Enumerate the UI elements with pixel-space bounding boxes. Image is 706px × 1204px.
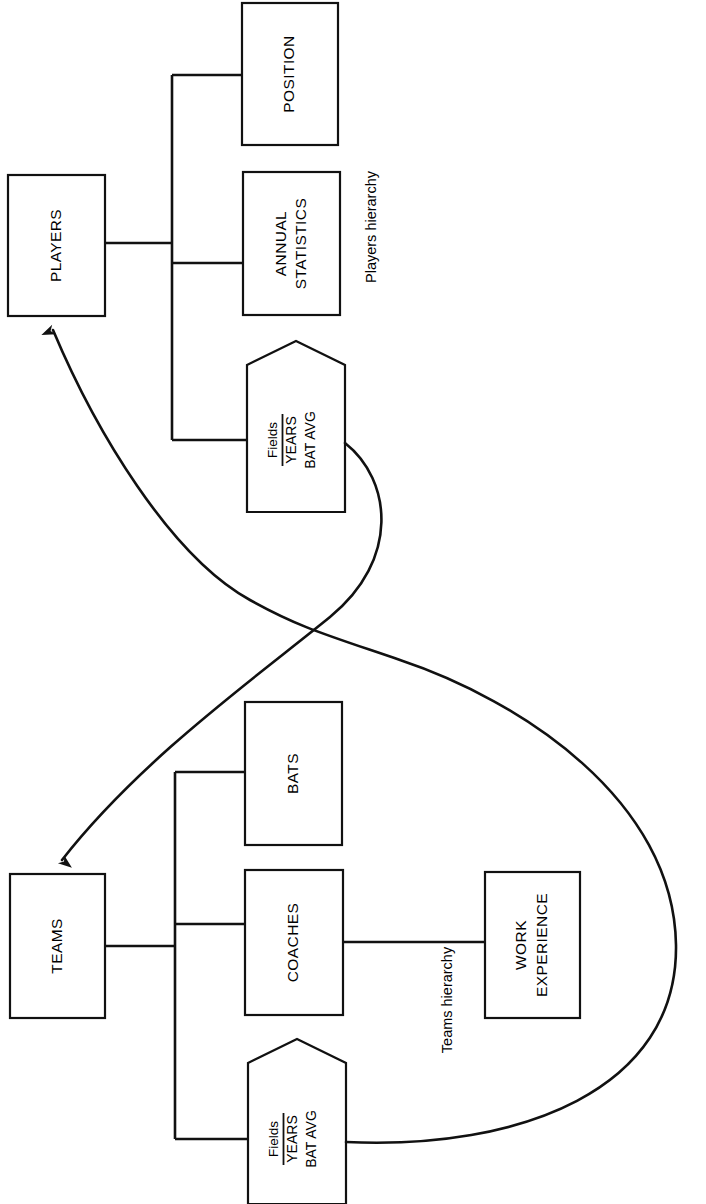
node-bats[interactable]: BATS	[245, 702, 342, 845]
node-teams[interactable]: TEAMS	[10, 874, 105, 1018]
node-position-label: POSITION	[280, 35, 297, 112]
relationship-teams-fields-to-players	[53, 330, 676, 1143]
node-coaches[interactable]: COACHES	[245, 870, 343, 1015]
node-annual-statistics-label-line2: STATISTICS	[292, 198, 309, 289]
teams-hierarchy-caption: Teams hierarchy	[439, 946, 455, 1053]
players-fields-item-2: BAT AVG	[302, 411, 318, 469]
relationship-curves	[53, 330, 676, 1143]
entity-hierarchy-diagram: PLAYERS POSITION ANNUAL STATISTICS Field…	[0, 0, 706, 1204]
node-coaches-label: COACHES	[284, 903, 301, 982]
node-work-experience-label-line1: WORK	[512, 920, 529, 970]
node-position[interactable]: POSITION	[242, 3, 338, 145]
teams-fields-item-1: YEARS	[284, 1115, 300, 1162]
players-tree-connectors	[105, 75, 247, 440]
node-players-label: PLAYERS	[47, 209, 64, 282]
teams-fields-item-2: BAT AVG	[303, 1110, 319, 1168]
node-players-fields[interactable]: Fields YEARS BAT AVG	[247, 341, 345, 512]
node-players[interactable]: PLAYERS	[8, 175, 105, 316]
node-teams-fields[interactable]: Fields YEARS BAT AVG	[248, 1039, 346, 1204]
diagram-canvas: PLAYERS POSITION ANNUAL STATISTICS Field…	[0, 0, 706, 1204]
node-work-experience-label-line2: EXPERIENCE	[533, 893, 550, 997]
node-annual-statistics[interactable]: ANNUAL STATISTICS	[243, 172, 340, 315]
players-fields-header: Fields	[265, 422, 280, 458]
teams-hierarchy-group: TEAMS BATS COACHES WORK EXPERIENCE F	[10, 702, 580, 1204]
players-hierarchy-caption: Players hierarchy	[363, 170, 379, 283]
node-bats-label: BATS	[284, 753, 301, 794]
players-fields-item-1: YEARS	[283, 416, 299, 463]
node-teams-label: TEAMS	[48, 918, 65, 973]
node-annual-statistics-label-line1: ANNUAL	[272, 211, 289, 276]
node-work-experience[interactable]: WORK EXPERIENCE	[485, 872, 580, 1018]
teams-fields-header: Fields	[266, 1121, 281, 1157]
players-hierarchy-group: PLAYERS POSITION ANNUAL STATISTICS Field…	[8, 3, 379, 512]
